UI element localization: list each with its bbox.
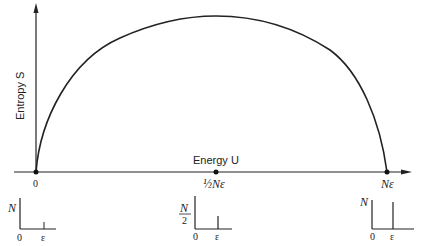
inset-half-state: N 2 0 ε bbox=[179, 196, 232, 242]
x-tick-0: 0 bbox=[33, 178, 38, 189]
svg-text:2: 2 bbox=[182, 215, 187, 226]
svg-text:N: N bbox=[179, 201, 189, 215]
y-axis-label: Entropy S bbox=[14, 72, 26, 120]
x-tick-max: Nε bbox=[380, 177, 394, 191]
point-half bbox=[214, 170, 219, 175]
entropy-curve bbox=[36, 16, 387, 172]
svg-text:N: N bbox=[7, 201, 17, 215]
svg-text:ε: ε bbox=[215, 231, 219, 242]
svg-text:0: 0 bbox=[370, 231, 375, 242]
point-max bbox=[385, 170, 390, 175]
svg-text:0: 0 bbox=[193, 231, 198, 242]
point-zero bbox=[34, 170, 39, 175]
svg-text:ε: ε bbox=[41, 232, 45, 243]
y-axis-arrow-icon bbox=[34, 3, 39, 13]
svg-text:N: N bbox=[359, 195, 369, 209]
svg-text:ε: ε bbox=[390, 231, 394, 242]
x-axis-arrow-icon bbox=[401, 170, 412, 175]
entropy-energy-diagram: Entropy S Energy U 0 ½Nε Nε N 0 ε N 2 0 … bbox=[0, 0, 423, 246]
inset-max-state: N 0 ε bbox=[359, 195, 414, 242]
inset-ground-state: N 0 ε bbox=[7, 198, 56, 243]
svg-text:0: 0 bbox=[17, 232, 22, 243]
x-tick-half: ½Nε bbox=[203, 177, 225, 191]
x-axis-label: Energy U bbox=[193, 154, 239, 166]
